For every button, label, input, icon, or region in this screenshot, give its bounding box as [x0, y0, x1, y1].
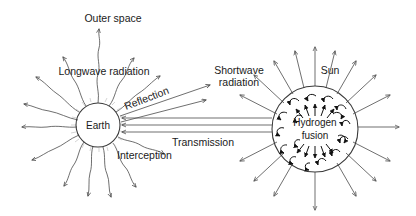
earth-longwave-rays	[22, 29, 164, 197]
earth-label: Earth	[86, 120, 110, 131]
sun-circle	[272, 86, 358, 172]
reflection-group: Reflection	[120, 84, 210, 122]
energy-balance-diagram: Earth Transmission Reflection Outer spac…	[0, 0, 416, 216]
shortwave-radiation-label-line2: radiation	[219, 76, 259, 88]
hydrogen-fusion-label-line2: fusion	[302, 130, 329, 141]
reflection-label: Reflection	[122, 84, 170, 112]
earth-group: Earth	[22, 29, 164, 197]
interception-label: Interception	[117, 149, 172, 161]
shortwave-radiation-label-line1: Shortwave	[214, 64, 264, 76]
hydrogen-fusion-label-line1: Hydrogen	[293, 117, 336, 128]
transmission-beam: Transmission	[122, 118, 272, 148]
diagram-canvas: Earth Transmission Reflection Outer spac…	[0, 0, 416, 216]
transmission-label: Transmission	[172, 136, 234, 148]
sun-group: Hydrogen fusion	[240, 47, 399, 210]
sun-shortwave-rays	[240, 47, 399, 210]
outer-space-label: Outer space	[84, 12, 141, 24]
longwave-radiation-label: Longwave radiation	[58, 65, 149, 77]
